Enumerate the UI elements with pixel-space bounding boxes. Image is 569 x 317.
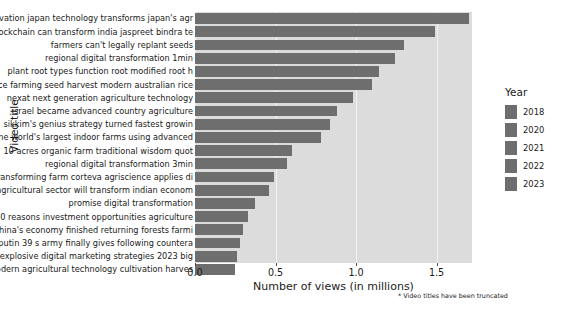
bar[interactable] bbox=[195, 158, 287, 169]
category-label: israel became advanced country agricultu… bbox=[0, 107, 193, 115]
category-label: modern agricultural technology cultivati… bbox=[0, 265, 193, 273]
bar-track bbox=[195, 25, 472, 38]
category-label: plant root types function root modified … bbox=[0, 67, 193, 75]
bar[interactable] bbox=[195, 53, 395, 64]
legend-swatch bbox=[505, 159, 517, 173]
bar-track bbox=[195, 118, 472, 131]
category-label: 10 acres organic farm traditional wisdom… bbox=[0, 147, 193, 155]
bar-track bbox=[195, 250, 472, 263]
legend-item[interactable]: 2022 bbox=[505, 157, 544, 175]
bar[interactable] bbox=[195, 132, 321, 143]
bar-track bbox=[195, 104, 472, 117]
bar-track bbox=[195, 184, 472, 197]
category-label: farmers can't legally replant seeds bbox=[0, 41, 193, 49]
bar[interactable] bbox=[195, 251, 237, 262]
bar[interactable] bbox=[195, 172, 274, 183]
category-label: sikkim's genius strategy turned fastest … bbox=[0, 120, 193, 128]
legend-item[interactable]: 2021 bbox=[505, 139, 544, 157]
x-tick-mark bbox=[356, 263, 357, 266]
bar[interactable] bbox=[195, 92, 353, 103]
bar[interactable] bbox=[195, 238, 240, 249]
bar-row[interactable]: regional digital transformation 3min bbox=[0, 157, 472, 170]
x-tick-label: 0.5 bbox=[268, 267, 283, 278]
legend-items: 20182020202120222023 bbox=[505, 103, 544, 193]
x-tick-mark bbox=[195, 263, 196, 266]
bar-track bbox=[195, 157, 472, 170]
category-label: putin 39 s army finally gives following … bbox=[0, 239, 193, 247]
bar-row[interactable]: one world's largest indoor farms using a… bbox=[0, 131, 472, 144]
category-label: china's economy finished returning fores… bbox=[0, 226, 193, 234]
category-label: blockchain can transform india jaspreet … bbox=[0, 28, 193, 36]
bar-row[interactable]: innovation japan technology transforms j… bbox=[0, 12, 472, 25]
category-label: nexat next generation agriculture techno… bbox=[0, 94, 193, 102]
x-tick-mark bbox=[276, 263, 277, 266]
bar-row[interactable]: farmers can't legally replant seeds bbox=[0, 38, 472, 51]
bar-track bbox=[195, 210, 472, 223]
bar[interactable] bbox=[195, 26, 435, 37]
legend-item[interactable]: 2023 bbox=[505, 175, 544, 193]
bar-row[interactable]: rice farming seed harvest modern austral… bbox=[0, 78, 472, 91]
bar-track bbox=[195, 38, 472, 51]
bar-track bbox=[195, 144, 472, 157]
bar[interactable] bbox=[195, 40, 404, 51]
x-tick-label: 0.0 bbox=[187, 267, 202, 278]
bar[interactable] bbox=[195, 106, 337, 117]
category-label: promise digital transformation bbox=[0, 199, 193, 207]
category-label: regional digital transformation 1min bbox=[0, 54, 193, 62]
legend-item[interactable]: 2020 bbox=[505, 121, 544, 139]
bar-rows: innovation japan technology transforms j… bbox=[0, 12, 472, 263]
bar-row[interactable]: promise digital transformation bbox=[0, 197, 472, 210]
bar-row[interactable]: 5 explosive digital marketing strategies… bbox=[0, 250, 472, 263]
bar-row[interactable]: sikkim's genius strategy turned fastest … bbox=[0, 118, 472, 131]
bar-row[interactable]: agricultural sector will transform india… bbox=[0, 184, 472, 197]
legend-swatch bbox=[505, 123, 517, 137]
bar[interactable] bbox=[195, 211, 248, 222]
bar-row[interactable]: israel became advanced country agricultu… bbox=[0, 104, 472, 117]
legend-label: 2020 bbox=[523, 125, 544, 135]
bar[interactable] bbox=[195, 224, 243, 235]
bar[interactable] bbox=[195, 79, 372, 90]
bar-row[interactable]: blockchain can transform india jaspreet … bbox=[0, 25, 472, 38]
category-label: regional digital transformation 3min bbox=[0, 160, 193, 168]
legend-label: 2018 bbox=[523, 107, 544, 117]
bar-row[interactable]: nexat next generation agriculture techno… bbox=[0, 91, 472, 104]
footnote: * Video titles have been truncated bbox=[398, 292, 508, 300]
category-label: one world's largest indoor farms using a… bbox=[0, 133, 193, 141]
bar-row[interactable]: transforming farm corteva agriscience ap… bbox=[0, 170, 472, 183]
legend-title: Year bbox=[505, 86, 544, 98]
bar-row[interactable]: putin 39 s army finally gives following … bbox=[0, 236, 472, 249]
bar-row[interactable]: 10 acres organic farm traditional wisdom… bbox=[0, 144, 472, 157]
category-label: agricultural sector will transform india… bbox=[0, 186, 193, 194]
category-label: rice farming seed harvest modern austral… bbox=[0, 81, 193, 89]
x-tick-label: 1.0 bbox=[348, 267, 363, 278]
legend-swatch bbox=[505, 105, 517, 119]
category-label: 10 reasons investment opportunities agri… bbox=[0, 213, 193, 221]
bar-row[interactable]: plant root types function root modified … bbox=[0, 65, 472, 78]
bar[interactable] bbox=[195, 145, 292, 156]
bar[interactable] bbox=[195, 66, 379, 77]
bar-track bbox=[195, 131, 472, 144]
bar-track bbox=[195, 170, 472, 183]
category-label: 5 explosive digital marketing strategies… bbox=[0, 252, 193, 260]
bar-track bbox=[195, 236, 472, 249]
bar-row[interactable]: regional digital transformation 1min bbox=[0, 52, 472, 65]
bar-track bbox=[195, 91, 472, 104]
legend: Year 20182020202120222023 bbox=[505, 86, 544, 193]
bar-row[interactable]: 10 reasons investment opportunities agri… bbox=[0, 210, 472, 223]
legend-label: 2022 bbox=[523, 161, 544, 171]
bar-track bbox=[195, 223, 472, 236]
bar[interactable] bbox=[195, 119, 330, 130]
bar-track bbox=[195, 78, 472, 91]
bar[interactable] bbox=[195, 13, 469, 24]
legend-item[interactable]: 2018 bbox=[505, 103, 544, 121]
bar-track bbox=[195, 65, 472, 78]
bar[interactable] bbox=[195, 198, 255, 209]
legend-label: 2023 bbox=[523, 179, 544, 189]
bar-chart-figure: Video title innovation japan technology … bbox=[0, 0, 569, 317]
bar-row[interactable]: china's economy finished returning fores… bbox=[0, 223, 472, 236]
bar-track bbox=[195, 12, 472, 25]
x-tick-label: 1.5 bbox=[429, 267, 444, 278]
category-label: innovation japan technology transforms j… bbox=[0, 14, 193, 22]
bar[interactable] bbox=[195, 185, 269, 196]
category-label: transforming farm corteva agriscience ap… bbox=[0, 173, 193, 181]
